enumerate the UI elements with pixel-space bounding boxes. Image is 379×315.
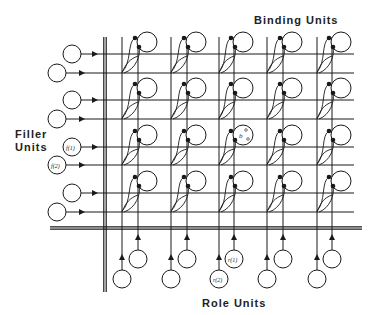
tensor-product-network-diagram: b f(1)f(2) r(2)r(1) — [0, 0, 379, 315]
binding-unit — [267, 32, 302, 73]
filler-unit — [63, 184, 81, 202]
binding-dot — [229, 175, 234, 180]
filler-symbol: f(2) — [51, 163, 60, 170]
filler-unit: f(2) — [48, 156, 66, 174]
binding-connection — [267, 195, 283, 212]
filler-unit-circle — [48, 110, 66, 128]
binding-connection — [269, 93, 284, 119]
binding-dot — [186, 91, 191, 96]
binding-dot — [182, 129, 187, 134]
binding-dot — [282, 138, 287, 143]
binding-unit — [317, 78, 351, 119]
filler-unit-circle — [48, 64, 66, 82]
binding-connection — [221, 93, 235, 119]
role-unit — [258, 270, 276, 288]
binding-connection — [267, 149, 283, 165]
arrow-up-icon — [329, 234, 335, 240]
role-unit-circle — [162, 270, 180, 288]
binding-dot — [327, 82, 332, 87]
role-unit-circle — [129, 250, 147, 268]
filler-units-title-line2: Units — [15, 141, 48, 154]
binding-unit — [122, 125, 157, 165]
binding-unit — [267, 78, 302, 119]
binding-unit: b — [219, 125, 253, 165]
binding-connection — [267, 102, 283, 119]
role-unit-circle — [323, 250, 341, 268]
binding-dot — [233, 45, 238, 50]
filler-units-title: Filler Units — [15, 128, 48, 154]
role-unit — [274, 250, 292, 268]
binding-connection — [171, 102, 187, 119]
binding-dot — [182, 36, 187, 41]
binding-dot — [186, 138, 191, 143]
arrow-up-icon — [231, 234, 237, 240]
binding-connection — [221, 47, 235, 73]
binding-dot — [233, 138, 238, 143]
binding-unit — [171, 32, 206, 73]
binding-dot — [282, 91, 287, 96]
binding-symbol: b — [239, 132, 243, 140]
binding-dot — [331, 91, 336, 96]
binding-connection — [173, 140, 188, 165]
binding-connection — [124, 47, 139, 73]
binding-connection — [221, 186, 235, 212]
role-unit: r(1) — [225, 250, 243, 268]
filler-unit-circle — [48, 203, 66, 221]
binding-dot — [282, 184, 287, 189]
filler-unit-circle — [63, 91, 81, 109]
binding-dot — [229, 82, 234, 87]
arrow-up-icon — [119, 254, 125, 260]
binding-units-title: Binding Units — [254, 14, 339, 27]
filler-unit — [48, 64, 66, 82]
binding-connection — [173, 186, 188, 212]
binding-dot — [278, 129, 283, 134]
binding-connection — [269, 47, 284, 73]
binding-dot — [327, 36, 332, 41]
binding-unit — [219, 78, 253, 119]
binding-connection — [319, 186, 333, 212]
binding-connection — [319, 47, 333, 73]
binding-dot — [327, 175, 332, 180]
binding-dot — [233, 91, 238, 96]
binding-unit — [317, 171, 351, 212]
arrow-up-icon — [264, 254, 270, 260]
binding-dot — [229, 36, 234, 41]
role-unit-circle — [308, 270, 326, 288]
binding-dot — [182, 82, 187, 87]
arrow-up-icon — [168, 254, 174, 260]
binding-unit — [171, 171, 206, 212]
arrow-right-icon — [92, 190, 98, 196]
arrow-up-icon — [184, 234, 190, 240]
binding-dot — [133, 175, 138, 180]
binding-connection — [319, 140, 333, 165]
binding-dot — [278, 36, 283, 41]
filler-units-title-line1: Filler — [15, 128, 48, 141]
binding-dot — [137, 138, 142, 143]
arrow-up-icon — [314, 254, 320, 260]
binding-unit — [122, 32, 157, 73]
binding-dot — [133, 82, 138, 87]
binding-connection — [173, 47, 188, 73]
binding-connection — [171, 195, 187, 212]
binding-connection — [269, 186, 284, 212]
filler-units-group: f(1)f(2) — [48, 45, 81, 221]
role-unit — [178, 250, 196, 268]
role-unit-circle — [274, 250, 292, 268]
binding-dot — [327, 129, 332, 134]
binding-connection — [267, 56, 283, 73]
binding-dot — [133, 36, 138, 41]
binding-dot — [137, 91, 142, 96]
arrow-right-icon — [92, 144, 98, 150]
filler-unit-circle — [63, 184, 81, 202]
binding-unit — [171, 78, 206, 119]
filler-unit: f(1) — [63, 138, 81, 156]
role-unit-circle — [113, 270, 131, 288]
binding-dot — [186, 184, 191, 189]
binding-unit — [267, 171, 302, 212]
binding-connection — [221, 140, 235, 165]
binding-dot — [137, 184, 142, 189]
role-unit — [129, 250, 147, 268]
arrow-right-icon — [92, 51, 98, 57]
role-symbol: r(1) — [228, 257, 237, 264]
binding-unit — [267, 125, 302, 165]
